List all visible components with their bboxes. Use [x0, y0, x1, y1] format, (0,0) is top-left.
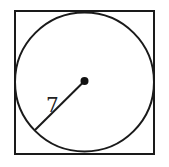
inscribed-circle-diagram: 7	[0, 0, 169, 167]
radius-label: 7	[46, 93, 59, 117]
radius-line	[35, 81, 85, 130]
center-point	[81, 77, 89, 85]
